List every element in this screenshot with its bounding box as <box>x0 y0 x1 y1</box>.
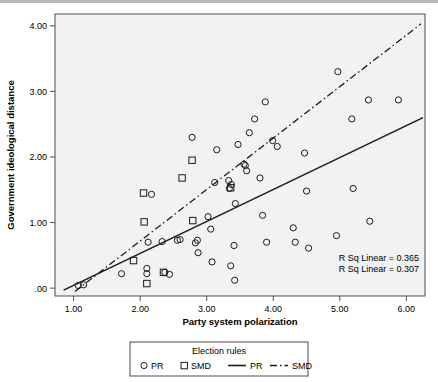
x-tick-label: 2.00 <box>131 304 149 314</box>
rsq-annotation-pr: R Sq Linear = 0.365 <box>339 253 419 263</box>
y-tick-label: 4.00 <box>29 21 47 31</box>
legend-label-smd-3: SMD <box>292 361 313 371</box>
x-tick-label: 1.00 <box>65 304 83 314</box>
legend-label-pr-0: PR <box>151 361 164 371</box>
x-tick-label: 4.00 <box>265 304 283 314</box>
legend: Election rules PRSMDPRSMD <box>130 342 313 376</box>
legend-label-smd-1: SMD <box>191 361 212 371</box>
y-tick-label: .00 <box>34 284 47 294</box>
legend-title: Election rules <box>192 346 247 356</box>
y-tick-label: 3.00 <box>29 87 47 97</box>
x-tick-label: 5.00 <box>331 304 349 314</box>
rsq-annotation-smd: R Sq Linear = 0.307 <box>339 264 419 274</box>
y-axis-label: Government ideological distance <box>5 80 16 229</box>
x-tick-label: 6.00 <box>398 304 416 314</box>
x-axis-ticks: 1.002.003.004.005.006.00 <box>65 296 415 314</box>
y-tick-label: 2.00 <box>29 152 47 162</box>
x-axis-label: Party system polarization <box>182 316 297 327</box>
legend-label-pr-2: PR <box>250 361 263 371</box>
chart-figure: 1.002.003.004.005.006.00 .001.002.003.00… <box>0 0 438 382</box>
y-tick-label: 1.00 <box>29 218 47 228</box>
scatter-plot: 1.002.003.004.005.006.00 .001.002.003.00… <box>0 0 438 382</box>
y-axis-ticks: .001.002.003.004.00 <box>29 21 55 293</box>
x-tick-label: 3.00 <box>198 304 216 314</box>
top-divider-bar <box>0 0 438 3</box>
